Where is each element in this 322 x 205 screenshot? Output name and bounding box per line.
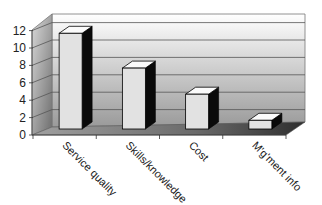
side-wall: [32, 14, 52, 135]
category-label: Skills/knowledge: [123, 139, 189, 205]
y-tick-label: 6: [19, 76, 26, 90]
y-tick-label: 4: [19, 93, 26, 107]
category-label: M'g'ment info: [250, 139, 304, 193]
bar: [186, 87, 219, 129]
y-tick-label: 10: [13, 41, 27, 55]
y-tick-label: 8: [19, 58, 26, 72]
y-tick-label: 2: [19, 111, 26, 125]
y-axis: 024681012: [13, 24, 33, 142]
bar: [122, 61, 155, 129]
bar: [59, 26, 92, 129]
x-axis: Service qualitySkills/knowledgeCostM'g'm…: [33, 135, 304, 205]
category-label: Cost: [187, 139, 211, 163]
y-tick-label: 12: [13, 24, 27, 38]
y-tick-label: 0: [19, 128, 26, 142]
category-label: Service quality: [60, 139, 119, 198]
column-chart-3d: 024681012 Service qualitySkills/knowledg…: [0, 0, 322, 205]
